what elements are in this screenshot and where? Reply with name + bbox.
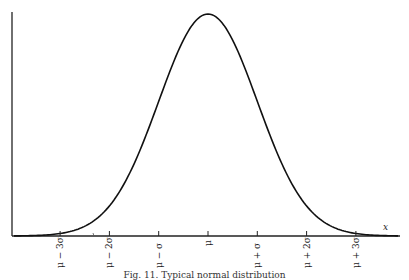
x-tick-label: μ − 3σ [55,237,65,268]
x-tick-label: μ [203,240,213,246]
normal-curve [14,14,398,236]
x-tick-label: μ + σ [252,243,262,268]
figure-caption: Fig. 11. Typical normal distribution [0,270,409,280]
x-tick-label: μ + 2σ [302,237,312,268]
x-tick-label: μ + 3σ [351,237,361,268]
normal-distribution-figure: μ − 3σμ − 2σμ − σμμ + σμ + 2σμ + 3σ x [0,0,409,280]
x-tick-label: μ − 2σ [104,237,114,268]
x-tick-label: μ − σ [154,243,164,268]
x-axis-label: x [383,222,388,232]
